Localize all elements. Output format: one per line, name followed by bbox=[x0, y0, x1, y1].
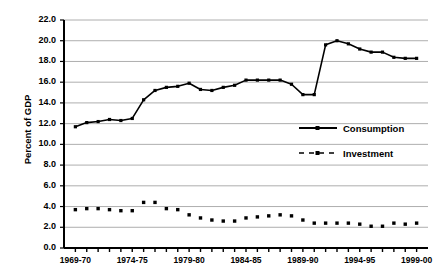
x-axis-tick-label: 1989-90 bbox=[273, 256, 333, 265]
data-point-investment bbox=[267, 214, 270, 217]
data-point-consumption bbox=[392, 56, 395, 59]
data-point-consumption bbox=[370, 51, 373, 54]
data-point-investment bbox=[176, 208, 179, 211]
data-point-investment bbox=[404, 222, 407, 225]
data-point-consumption bbox=[85, 121, 88, 124]
y-axis-tick-label: 16.0 bbox=[22, 77, 56, 86]
data-point-consumption bbox=[131, 117, 134, 120]
data-point-investment bbox=[381, 225, 384, 228]
data-point-consumption bbox=[415, 57, 418, 60]
data-point-investment bbox=[358, 222, 361, 225]
legend-swatch-consumption bbox=[298, 122, 338, 134]
x-axis-tick-label: 1994-95 bbox=[330, 256, 390, 265]
y-axis-tick-label: 18.0 bbox=[22, 56, 56, 65]
data-point-investment bbox=[119, 209, 122, 212]
data-point-investment bbox=[415, 221, 418, 224]
y-axis-tick-label: 0.0 bbox=[22, 243, 56, 252]
data-point-consumption bbox=[290, 83, 293, 86]
data-point-consumption bbox=[142, 98, 145, 101]
data-point-investment bbox=[96, 207, 99, 210]
data-point-consumption bbox=[176, 85, 179, 88]
y-axis-tick-label: 8.0 bbox=[22, 160, 56, 169]
x-axis-tick-label: 1984-85 bbox=[216, 256, 276, 265]
data-point-investment bbox=[347, 221, 350, 224]
data-point-investment bbox=[335, 221, 338, 224]
data-point-investment bbox=[210, 218, 213, 221]
data-point-consumption bbox=[313, 93, 316, 96]
y-axis-tick-label: 12.0 bbox=[22, 119, 56, 128]
data-point-investment bbox=[131, 209, 134, 212]
data-point-consumption bbox=[267, 79, 270, 82]
data-point-consumption bbox=[153, 89, 156, 92]
legend-item-investment: Investment bbox=[298, 147, 428, 159]
data-point-investment bbox=[153, 201, 156, 204]
data-point-consumption bbox=[256, 79, 259, 82]
data-point-consumption bbox=[381, 51, 384, 54]
data-point-investment bbox=[187, 213, 190, 216]
data-point-investment bbox=[369, 225, 372, 228]
data-point-consumption bbox=[347, 42, 350, 45]
data-point-consumption bbox=[210, 89, 213, 92]
x-axis-tick-label: 1974-75 bbox=[102, 256, 162, 265]
y-axis-title: Percent of GDP bbox=[22, 70, 33, 190]
data-point-consumption bbox=[199, 88, 202, 91]
legend-label: Consumption bbox=[343, 123, 404, 134]
data-point-consumption bbox=[97, 120, 100, 123]
legend-item-consumption: Consumption bbox=[298, 122, 428, 134]
data-point-investment bbox=[233, 219, 236, 222]
y-axis-tick-label: 6.0 bbox=[22, 181, 56, 190]
legend-swatch-investment bbox=[298, 147, 338, 159]
data-point-consumption bbox=[279, 79, 282, 82]
data-point-consumption bbox=[233, 84, 236, 87]
data-point-consumption bbox=[404, 57, 407, 60]
data-point-investment bbox=[74, 208, 77, 211]
data-point-consumption bbox=[222, 86, 225, 89]
data-point-investment bbox=[392, 221, 395, 224]
data-point-consumption bbox=[108, 118, 111, 121]
data-point-consumption bbox=[188, 82, 191, 85]
series-line-consumption bbox=[75, 41, 416, 127]
data-point-investment bbox=[199, 216, 202, 219]
data-point-investment bbox=[244, 216, 247, 219]
x-axis-tick-label: 1999-00 bbox=[387, 256, 440, 265]
data-point-consumption bbox=[165, 86, 168, 89]
data-point-investment bbox=[290, 214, 293, 217]
data-point-investment bbox=[324, 221, 327, 224]
data-point-consumption bbox=[244, 79, 247, 82]
data-point-consumption bbox=[335, 39, 338, 42]
data-point-consumption bbox=[74, 125, 77, 128]
data-point-consumption bbox=[358, 47, 361, 50]
data-point-investment bbox=[301, 218, 304, 221]
y-axis-tick-label: 20.0 bbox=[22, 36, 56, 45]
y-axis-tick-label: 22.0 bbox=[22, 15, 56, 24]
data-point-investment bbox=[108, 208, 111, 211]
data-point-consumption bbox=[324, 43, 327, 46]
data-point-investment bbox=[222, 219, 225, 222]
y-axis-tick-label: 10.0 bbox=[22, 139, 56, 148]
x-axis-tick-label: 1969-70 bbox=[45, 256, 105, 265]
data-point-investment bbox=[165, 207, 168, 210]
chart-container: Percent of GDP 22.020.018.016.014.012.01… bbox=[0, 0, 440, 279]
data-point-investment bbox=[142, 201, 145, 204]
y-axis-tick-label: 2.0 bbox=[22, 222, 56, 231]
data-point-investment bbox=[313, 221, 316, 224]
chart-legend: ConsumptionInvestment bbox=[298, 122, 428, 172]
x-axis-tick-label: 1979-80 bbox=[159, 256, 219, 265]
data-point-investment bbox=[278, 213, 281, 216]
data-point-consumption bbox=[301, 93, 304, 96]
y-axis-tick-label: 4.0 bbox=[22, 202, 56, 211]
y-axis-tick-label: 14.0 bbox=[22, 98, 56, 107]
data-point-investment bbox=[256, 215, 259, 218]
data-point-investment bbox=[85, 207, 88, 210]
data-point-consumption bbox=[119, 119, 122, 122]
legend-label: Investment bbox=[343, 148, 393, 159]
